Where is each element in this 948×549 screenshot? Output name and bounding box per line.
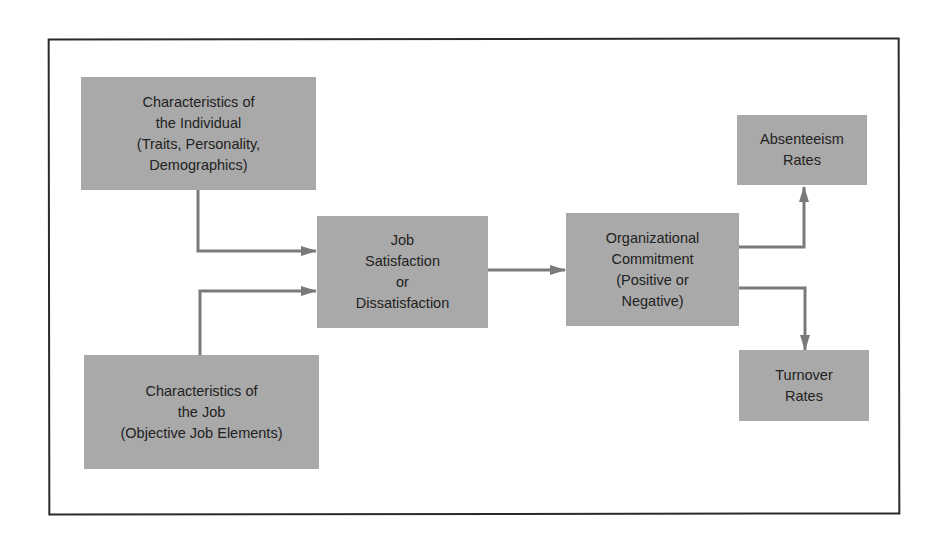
node-label: Organizational Commitment (Positive or N… [606,228,700,312]
node-label: Characteristics of the Individual (Trait… [137,92,260,176]
node-label: Absenteeism Rates [760,129,844,171]
node-organizational-commitment: Organizational Commitment (Positive or N… [566,213,739,326]
arrow-individual-to-satisfaction [198,190,316,251]
arrow-commitment-to-absenteeism [739,187,804,247]
node-individual-characteristics: Characteristics of the Individual (Trait… [81,77,316,190]
node-job-characteristics: Characteristics of the Job (Objective Jo… [84,355,319,469]
node-label: Characteristics of the Job (Objective Jo… [121,381,283,444]
node-label: Turnover Rates [775,365,832,407]
node-job-satisfaction: Job Satisfaction or Dissatisfaction [317,216,488,328]
node-label: Job Satisfaction or Dissatisfaction [356,230,449,314]
arrow-commitment-to-turnover [739,288,805,350]
node-turnover-rates: Turnover Rates [739,350,869,421]
node-absenteeism-rates: Absenteeism Rates [737,115,867,185]
arrow-job-to-satisfaction [200,291,316,355]
